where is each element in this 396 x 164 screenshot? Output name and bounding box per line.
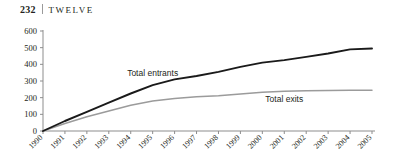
runhead-divider: [42, 4, 43, 14]
svg-text:300: 300: [24, 76, 37, 86]
svg-text:1990: 1990: [27, 133, 45, 151]
svg-text:1995: 1995: [136, 133, 154, 151]
svg-text:400: 400: [24, 59, 37, 69]
svg-text:2003: 2003: [312, 133, 330, 151]
svg-text:1994: 1994: [114, 133, 132, 151]
series-label-total-exits: Total exits: [265, 94, 303, 104]
chart-svg: 0100200300400500600 19901991199219931994…: [0, 20, 396, 164]
series-label-total-entrants: Total entrants: [127, 68, 178, 78]
svg-text:2005: 2005: [356, 133, 374, 151]
svg-text:1999: 1999: [224, 133, 242, 151]
svg-text:2000: 2000: [246, 133, 264, 151]
chapter-title: TWELVE: [49, 5, 94, 15]
svg-text:2001: 2001: [268, 133, 286, 151]
page-number: 232: [20, 4, 36, 15]
svg-text:500: 500: [24, 43, 37, 53]
series-line-total-exits: [43, 90, 372, 131]
svg-text:200: 200: [24, 93, 37, 103]
x-axis-tick-labels: 1990199119921993199419951996199719981999…: [27, 133, 374, 151]
svg-text:2004: 2004: [334, 133, 352, 151]
svg-text:1993: 1993: [93, 133, 111, 151]
svg-text:100: 100: [24, 109, 37, 119]
series-line-total-entrants: [43, 49, 372, 132]
svg-text:1998: 1998: [202, 133, 220, 151]
line-chart: 0100200300400500600 19901991199219931994…: [0, 20, 396, 164]
svg-text:1992: 1992: [71, 133, 89, 151]
svg-text:1996: 1996: [158, 133, 176, 151]
svg-text:2002: 2002: [290, 133, 308, 151]
running-head: 232 TWELVE: [20, 3, 94, 15]
svg-text:1991: 1991: [49, 133, 67, 151]
page-container: 232 TWELVE 0100200300400500600 199019911…: [0, 0, 396, 164]
y-axis-tick-labels: 0100200300400500600: [24, 26, 37, 136]
svg-text:600: 600: [24, 26, 37, 36]
svg-text:1997: 1997: [180, 133, 198, 151]
